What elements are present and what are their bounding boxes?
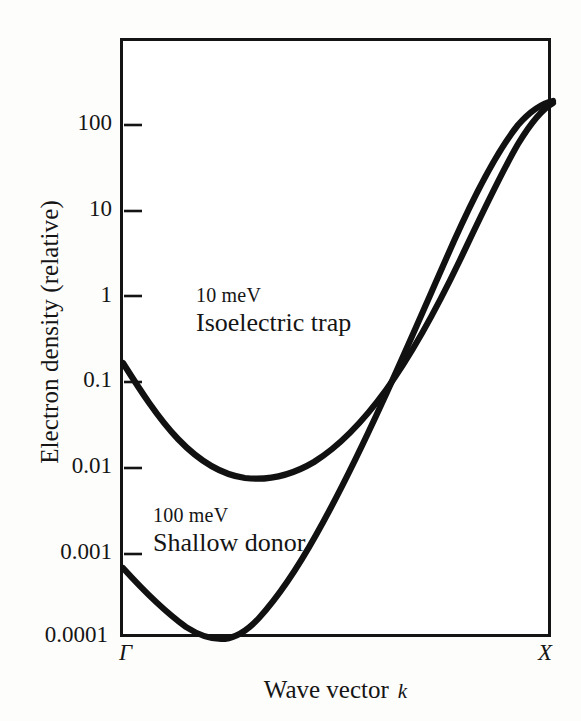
y-tick-label-100: 100 xyxy=(0,110,112,136)
annotation-shallow-donor: 100 meV Shallow donor xyxy=(153,504,305,558)
x-tick-label-x: X xyxy=(538,640,552,666)
curve-shallow-donor xyxy=(123,101,553,639)
figure-log-plot: Electron density (relative) 100 10 1 0.1… xyxy=(0,0,581,721)
annotation-isoelectric-trap: 10 meV Isoelectric trap xyxy=(196,284,351,338)
y-tick-label-0.0001: 0.0001 xyxy=(0,622,108,648)
x-axis-title: Wave vectork xyxy=(120,676,551,704)
x-axis-title-symbol: k xyxy=(398,679,407,703)
annotation-energy-100mev: 100 meV xyxy=(153,504,305,527)
annotation-energy-10mev: 10 meV xyxy=(196,284,351,307)
y-tick-label-0.001: 0.001 xyxy=(0,539,112,565)
y-axis-ticks xyxy=(124,125,142,554)
x-tick-label-gamma: Γ xyxy=(119,640,132,666)
x-axis-title-text: Wave vector xyxy=(264,676,389,703)
y-tick-label-0.1: 0.1 xyxy=(0,367,112,393)
annotation-name-shallow-donor: Shallow donor xyxy=(153,528,305,558)
annotation-name-isoelectric-trap: Isoelectric trap xyxy=(196,308,351,338)
y-axis-title: Electron density (relative) xyxy=(36,82,64,582)
y-tick-label-0.01: 0.01 xyxy=(0,453,112,479)
y-tick-label-1: 1 xyxy=(0,282,112,308)
y-tick-label-10: 10 xyxy=(0,196,112,222)
